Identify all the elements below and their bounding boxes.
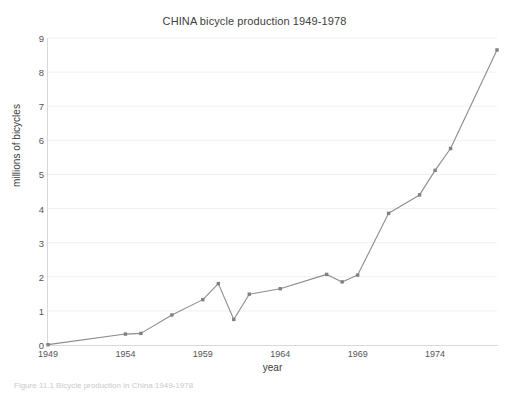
data-point-marker [340,280,343,283]
data-point-marker [449,147,452,150]
x-tick-label: 1959 [193,349,213,359]
x-tick-label: 1949 [38,349,58,359]
data-point-marker [279,287,282,290]
y-tick-label: 2 [4,271,44,282]
data-point-marker [495,48,498,51]
x-tick-label: 1969 [348,349,368,359]
data-point-marker [201,298,204,301]
figure-caption: Figure 11.1 Bicycle production in China … [14,381,193,390]
y-tick-label: 9 [4,33,44,44]
x-axis-line [48,345,498,346]
y-axis-tick-labels: 0123456789 [0,0,44,394]
plot-area [48,38,497,345]
y-axis-title: millions of bicycles [11,86,22,206]
chart-title: CHINA bicycle production 1949-1978 [0,15,509,27]
series-line [48,50,497,345]
data-point-marker [418,193,421,196]
data-point-marker [124,332,127,335]
x-tick-label: 1954 [115,349,135,359]
data-series-bicycle-production [48,38,497,345]
data-point-marker [232,318,235,321]
data-point-marker [433,169,436,172]
x-axis-title: year [48,362,497,373]
y-tick-label: 1 [4,305,44,316]
x-tick-label: 1974 [425,349,445,359]
figure-container: CHINA bicycle production 1949-1978 01234… [0,0,509,394]
data-point-marker [356,273,359,276]
x-tick-label: 1964 [270,349,290,359]
data-point-marker [325,273,328,276]
data-point-marker [46,343,49,346]
data-point-marker [139,332,142,335]
y-tick-label: 3 [4,237,44,248]
data-point-marker [170,313,173,316]
data-point-marker [387,212,390,215]
data-point-marker [248,292,251,295]
y-tick-label: 8 [4,67,44,78]
data-point-marker [217,282,220,285]
